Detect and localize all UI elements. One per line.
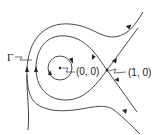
saddle-point (106, 69, 109, 72)
gamma-label: Γ (7, 51, 13, 63)
center-point (59, 67, 62, 70)
arrow-icon (126, 22, 133, 29)
center-label: (0, 0) (76, 66, 99, 77)
arrow-icon (122, 109, 127, 114)
arrow-icon (34, 66, 38, 72)
saddle-label: (1, 0) (128, 67, 151, 78)
phase-portrait: (0, 0) (1, 0) Γ (0, 0, 159, 135)
arrow-icon (25, 66, 29, 72)
outer-orbit-lower (27, 75, 140, 134)
